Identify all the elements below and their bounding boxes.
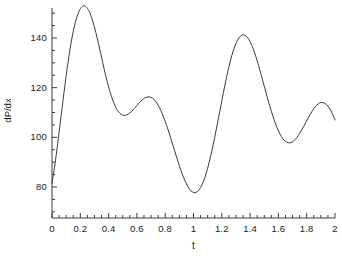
x-tick-label: 1.2 bbox=[207, 223, 237, 234]
x-tick-label: 1.6 bbox=[263, 223, 293, 234]
data-series-line bbox=[52, 6, 335, 193]
x-tick-label: 2 bbox=[320, 223, 342, 234]
x-axis-ticks bbox=[52, 213, 335, 218]
y-axis-ticks bbox=[52, 13, 57, 212]
y-axis-title: dP/dx bbox=[2, 98, 13, 122]
x-tick-label: 0.2 bbox=[65, 223, 95, 234]
x-tick-label: 1.4 bbox=[235, 223, 265, 234]
x-tick-label: 1.8 bbox=[292, 223, 322, 234]
axes-group bbox=[52, 8, 335, 218]
y-tick-label: 140 bbox=[19, 32, 47, 43]
x-tick-label: 0.8 bbox=[150, 223, 180, 234]
x-tick-label: 0 bbox=[37, 223, 67, 234]
x-tick-label: 0.4 bbox=[94, 223, 124, 234]
x-tick-label: 0.6 bbox=[122, 223, 152, 234]
y-tick-label: 120 bbox=[19, 82, 47, 93]
y-tick-label: 100 bbox=[19, 131, 47, 142]
x-tick-label: 1 bbox=[179, 223, 209, 234]
x-axis-title: t bbox=[174, 240, 214, 251]
y-tick-label: 80 bbox=[19, 181, 47, 192]
